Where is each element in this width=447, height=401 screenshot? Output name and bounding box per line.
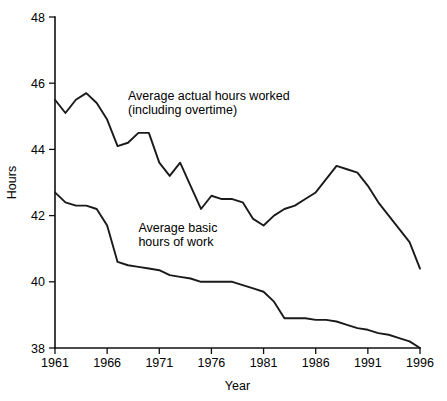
- x-tick-label: 1996: [406, 356, 434, 370]
- x-tick-label: 1976: [198, 356, 226, 370]
- y-axis-title: Hours: [5, 166, 19, 199]
- series-annotation-actual-hours-line2: (including overtime): [128, 103, 237, 117]
- x-tick-label: 1991: [354, 356, 382, 370]
- chart-series-lines: [55, 93, 420, 348]
- x-tick-label: 1971: [145, 356, 173, 370]
- x-tick-label: 1986: [302, 356, 330, 370]
- x-axis-title: Year: [225, 379, 250, 393]
- series-annotation-actual-hours-line1: Average actual hours worked: [128, 89, 290, 103]
- x-tick-label: 1981: [250, 356, 278, 370]
- y-axis-tick-labels: 384042444648: [31, 11, 45, 356]
- y-tick-label: 40: [31, 275, 45, 289]
- y-tick-label: 42: [31, 209, 45, 223]
- x-tick-label: 1966: [93, 356, 121, 370]
- series-annotation-basic-hours-line1: Average basic: [138, 221, 217, 235]
- series-line-basic-hours: [55, 192, 420, 348]
- y-tick-label: 46: [31, 77, 45, 91]
- figure-container: 384042444648 196119661971197619811986199…: [0, 0, 447, 401]
- line-chart: 384042444648 196119661971197619811986199…: [0, 0, 447, 401]
- series-annotation-basic-hours-line2: hours of work: [138, 235, 214, 249]
- chart-tick-marks: [49, 17, 420, 354]
- y-tick-label: 48: [31, 11, 45, 25]
- x-axis-tick-labels: 19611966197119761981198619911996: [41, 356, 434, 370]
- y-tick-label: 38: [31, 342, 45, 356]
- y-tick-label: 44: [31, 143, 45, 157]
- x-tick-label: 1961: [41, 356, 69, 370]
- series-line-actual-hours: [55, 93, 420, 268]
